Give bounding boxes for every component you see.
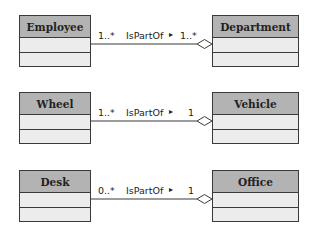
class-desk: Desk bbox=[19, 170, 91, 222]
whole-multiplicity: 1 bbox=[188, 185, 194, 196]
part-multiplicity: 0..* bbox=[98, 185, 115, 196]
aggregation-diamond-icon bbox=[197, 40, 212, 49]
direction-arrow-icon: ▸ bbox=[169, 107, 173, 116]
class-vehicle: Vehicle bbox=[212, 92, 299, 144]
operations-compartment bbox=[213, 208, 298, 222]
aggregation-diamond-icon bbox=[197, 195, 212, 204]
operations-compartment bbox=[20, 53, 90, 67]
attributes-compartment bbox=[213, 38, 298, 53]
whole-multiplicity: 1..* bbox=[180, 30, 197, 41]
attributes-compartment bbox=[20, 38, 90, 53]
class-name: Office bbox=[213, 171, 298, 193]
operations-compartment bbox=[20, 208, 90, 222]
direction-arrow-icon: ▸ bbox=[169, 30, 173, 39]
whole-multiplicity: 1 bbox=[188, 107, 194, 118]
aggregation-diamond-icon bbox=[197, 117, 212, 126]
association-name: IsPartOf bbox=[126, 30, 163, 41]
operations-compartment bbox=[213, 130, 298, 144]
operations-compartment bbox=[20, 130, 90, 144]
part-multiplicity: 1..* bbox=[98, 30, 115, 41]
class-name: Wheel bbox=[20, 93, 90, 115]
class-employee: Employee bbox=[19, 15, 91, 67]
class-name: Desk bbox=[20, 171, 90, 193]
attributes-compartment bbox=[20, 193, 90, 208]
association-name: IsPartOf bbox=[126, 185, 163, 196]
operations-compartment bbox=[213, 53, 298, 67]
class-name: Department bbox=[213, 16, 298, 38]
attributes-compartment bbox=[213, 115, 298, 130]
part-multiplicity: 1..* bbox=[98, 107, 115, 118]
class-office: Office bbox=[212, 170, 299, 222]
association-name: IsPartOf bbox=[126, 107, 163, 118]
attributes-compartment bbox=[213, 193, 298, 208]
attributes-compartment bbox=[20, 115, 90, 130]
direction-arrow-icon: ▸ bbox=[169, 185, 173, 194]
class-name: Employee bbox=[20, 16, 90, 38]
class-name: Vehicle bbox=[213, 93, 298, 115]
class-wheel: Wheel bbox=[19, 92, 91, 144]
class-department: Department bbox=[212, 15, 299, 67]
